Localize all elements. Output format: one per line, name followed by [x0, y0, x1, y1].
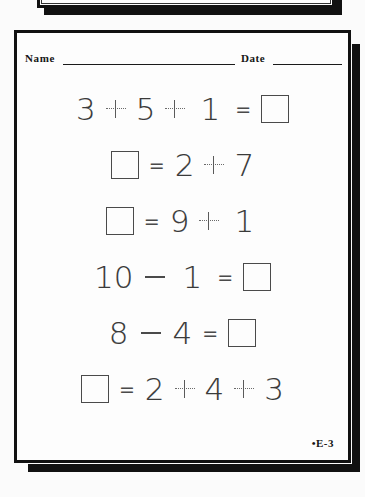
number-3: 3: [76, 94, 96, 125]
number-3: 3: [264, 374, 284, 405]
name-write-in-line[interactable]: [63, 52, 235, 65]
equals-sign: =: [118, 380, 136, 399]
equals-sign: =: [143, 212, 161, 231]
minus-sign-icon: [141, 332, 161, 334]
worksheet-drop-shadow-bottom: [28, 464, 360, 472]
plus-sign-icon: [165, 99, 185, 119]
number-4: 4: [173, 318, 193, 349]
problem-row: =243: [17, 361, 348, 417]
number-9: 9: [170, 206, 190, 237]
date-label: Date: [241, 52, 265, 65]
minus-sign-icon: [145, 276, 165, 278]
name-label: Name: [25, 52, 55, 65]
problem-row: 84=: [17, 305, 348, 361]
number-2: 2: [145, 374, 165, 405]
plus-sign-icon: [199, 211, 219, 231]
equals-sign: =: [201, 324, 219, 343]
number-1: 1: [177, 262, 207, 293]
top-fragment-drop-shadow: [44, 8, 342, 15]
top-worksheet-fragment-inner-rule: [41, 0, 331, 4]
worksheet-frame: Name Date 351==27=91101=84==243 •E-3: [14, 30, 351, 463]
worksheet-page-code: •E-3: [312, 437, 334, 449]
plus-sign-icon: [234, 379, 254, 399]
answer-box[interactable]: [228, 319, 256, 347]
equals-sign: =: [216, 268, 234, 287]
number-1: 1: [195, 94, 225, 125]
problem-list: 351==27=91101=84==243: [17, 81, 348, 417]
answer-box[interactable]: [111, 151, 139, 179]
equals-sign: =: [234, 100, 252, 119]
answer-box[interactable]: [261, 95, 289, 123]
scanned-page-background: Name Date 351==27=91101=84==243 •E-3: [0, 0, 365, 497]
problem-row: =27: [17, 137, 348, 193]
answer-box[interactable]: [243, 263, 271, 291]
problem-row: 101=: [17, 249, 348, 305]
equals-sign: =: [148, 156, 166, 175]
number-4: 4: [205, 374, 225, 405]
plus-sign-icon: [175, 379, 195, 399]
problem-row: 351=: [17, 81, 348, 137]
answer-box[interactable]: [106, 207, 134, 235]
date-write-in-line[interactable]: [273, 52, 342, 65]
number-1: 1: [229, 206, 259, 237]
number-8: 8: [109, 318, 129, 349]
plus-sign-icon: [204, 155, 224, 175]
worksheet-header: Name Date: [25, 45, 342, 65]
number-7: 7: [234, 150, 254, 181]
worksheet-drop-shadow-right: [352, 44, 360, 471]
answer-box[interactable]: [81, 375, 109, 403]
top-fragment-drop-shadow-side: [335, 0, 342, 14]
number-5: 5: [136, 94, 156, 125]
problem-row: =91: [17, 193, 348, 249]
number-10: 10: [94, 262, 133, 293]
plus-sign-icon: [106, 99, 126, 119]
number-2: 2: [175, 150, 195, 181]
